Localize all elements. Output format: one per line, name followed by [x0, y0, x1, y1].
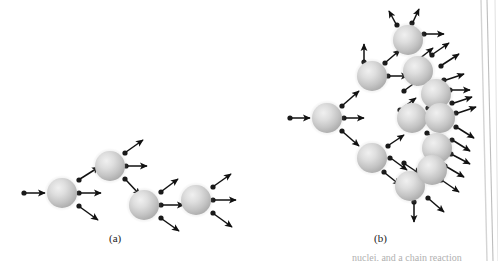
caption-text-sliver: nuclei, and a chain reaction	[352, 252, 498, 261]
nucleus-sphere	[92, 148, 128, 184]
nucleus-sphere	[354, 140, 390, 176]
nucleus-sphere	[44, 175, 80, 211]
nucleus-sphere	[414, 152, 450, 188]
panel-a-label: (a)	[109, 232, 121, 244]
nucleus-sphere	[178, 182, 214, 218]
nucleus-sphere	[390, 22, 426, 58]
fission-chain-reaction-figure	[0, 0, 498, 261]
nucleus-sphere	[126, 187, 162, 223]
neutron-dot	[287, 115, 292, 120]
nucleus-sphere	[354, 58, 390, 94]
nucleus-sphere	[309, 100, 345, 136]
panel-b-label: (b)	[374, 232, 387, 244]
neutron-dot	[21, 190, 26, 195]
